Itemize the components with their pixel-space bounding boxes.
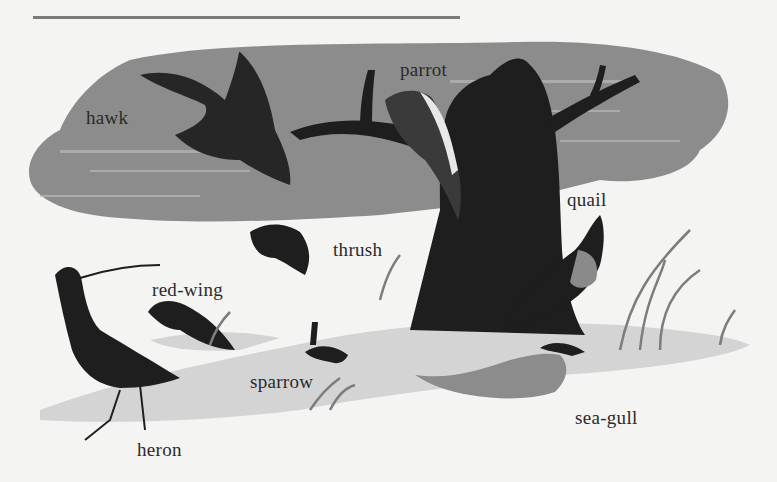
- label-red-wing: red-wing: [152, 280, 223, 299]
- label-heron: heron: [137, 440, 182, 459]
- thrush-illustration: [250, 225, 309, 276]
- label-hawk: hawk: [86, 108, 128, 127]
- label-thrush: thrush: [333, 240, 382, 259]
- label-quail: quail: [567, 190, 607, 209]
- label-sea-gull: sea-gull: [575, 408, 638, 427]
- label-sparrow: sparrow: [250, 372, 313, 391]
- bird-scene-illustration: [0, 0, 777, 482]
- label-parrot: parrot: [400, 60, 447, 79]
